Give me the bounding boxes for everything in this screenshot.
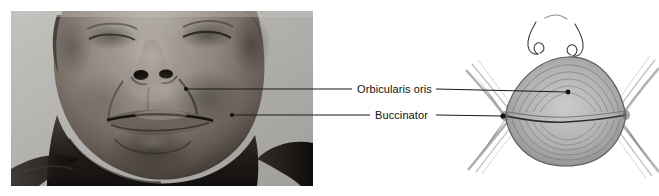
label-orbicularis-oris: Orbicularis oris: [357, 83, 432, 95]
buccinator-right-fibers: [602, 56, 659, 178]
buccinator-left-fibers: [466, 60, 528, 174]
clinical-photograph: [11, 11, 313, 186]
anatomy-figure: Orbicularis oris Buccinator: [0, 0, 659, 196]
nose-outline-icon: [528, 15, 583, 56]
orbicularis-oris-drawing: [466, 15, 659, 178]
label-buccinator: Buccinator: [375, 109, 428, 121]
